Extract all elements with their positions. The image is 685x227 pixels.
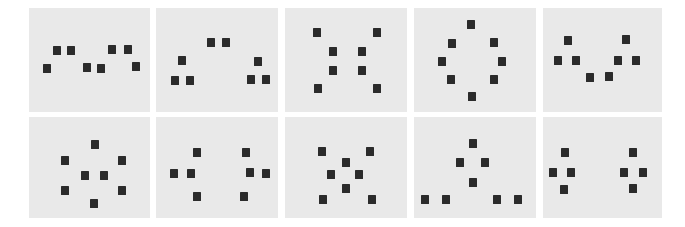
pattern-dot (124, 45, 132, 54)
stimulus-grid (0, 0, 685, 227)
dot-pattern-panel[interactable] (29, 117, 150, 218)
pattern-dot (438, 57, 446, 66)
pattern-dot (586, 73, 594, 82)
pattern-dot (108, 45, 116, 54)
pattern-dot (629, 184, 637, 193)
pattern-dot (342, 184, 350, 193)
pattern-dot (468, 92, 476, 101)
pattern-dot (193, 192, 201, 201)
pattern-dot (132, 62, 140, 71)
pattern-dot (61, 156, 69, 165)
pattern-dot (178, 56, 186, 65)
pattern-dot (247, 75, 255, 84)
pattern-dot (373, 28, 381, 37)
pattern-dot (91, 140, 99, 149)
pattern-dot (605, 72, 613, 81)
dot-pattern-panel[interactable] (543, 117, 662, 218)
pattern-dot (318, 147, 326, 156)
pattern-dot (118, 156, 126, 165)
dot-pattern-panel[interactable] (414, 8, 536, 112)
pattern-dot (240, 192, 248, 201)
pattern-dot (554, 56, 562, 65)
pattern-dot (61, 186, 69, 195)
pattern-dot (467, 20, 475, 29)
pattern-dot (246, 168, 254, 177)
pattern-dot (314, 84, 322, 93)
pattern-dot (170, 169, 178, 178)
pattern-dot (186, 76, 194, 85)
pattern-dot (481, 158, 489, 167)
pattern-dot (81, 171, 89, 180)
pattern-dot (469, 139, 477, 148)
pattern-dot (549, 168, 557, 177)
dot-pattern-panel[interactable] (285, 117, 407, 218)
pattern-dot (262, 75, 270, 84)
pattern-dot (373, 84, 381, 93)
pattern-dot (567, 168, 575, 177)
pattern-dot (358, 66, 366, 75)
pattern-dot (242, 148, 250, 157)
pattern-dot (90, 199, 98, 208)
pattern-dot (327, 170, 335, 179)
pattern-dot (193, 148, 201, 157)
pattern-dot (83, 63, 91, 72)
pattern-dot (493, 195, 501, 204)
pattern-dot (421, 195, 429, 204)
pattern-dot (67, 46, 75, 55)
pattern-dot (222, 38, 230, 47)
pattern-dot (564, 36, 572, 45)
pattern-dot (358, 47, 366, 56)
pattern-dot (514, 195, 522, 204)
dot-pattern-panel[interactable] (156, 117, 278, 218)
pattern-dot (456, 158, 464, 167)
pattern-dot (490, 75, 498, 84)
pattern-dot (629, 148, 637, 157)
pattern-dot (118, 186, 126, 195)
pattern-dot (620, 168, 628, 177)
pattern-dot (447, 75, 455, 84)
dot-pattern-panel[interactable] (29, 8, 150, 112)
pattern-dot (329, 47, 337, 56)
pattern-dot (43, 64, 51, 73)
pattern-dot (342, 158, 350, 167)
pattern-dot (313, 28, 321, 37)
pattern-dot (254, 57, 262, 66)
pattern-dot (319, 195, 327, 204)
pattern-dot (632, 56, 640, 65)
dot-pattern-panel[interactable] (156, 8, 278, 112)
dot-pattern-panel[interactable] (285, 8, 407, 112)
pattern-dot (207, 38, 215, 47)
pattern-dot (572, 56, 580, 65)
pattern-dot (329, 66, 337, 75)
pattern-dot (622, 35, 630, 44)
pattern-dot (53, 46, 61, 55)
pattern-dot (639, 168, 647, 177)
pattern-dot (561, 148, 569, 157)
pattern-dot (560, 185, 568, 194)
pattern-dot (187, 169, 195, 178)
pattern-dot (368, 195, 376, 204)
pattern-dot (262, 169, 270, 178)
pattern-dot (614, 56, 622, 65)
pattern-dot (100, 171, 108, 180)
dot-pattern-panel[interactable] (543, 8, 662, 112)
pattern-dot (97, 64, 105, 73)
pattern-dot (355, 170, 363, 179)
pattern-dot (498, 57, 506, 66)
pattern-dot (490, 38, 498, 47)
pattern-dot (448, 39, 456, 48)
pattern-dot (442, 195, 450, 204)
pattern-dot (366, 147, 374, 156)
pattern-dot (171, 76, 179, 85)
dot-pattern-panel[interactable] (414, 117, 536, 218)
pattern-dot (469, 178, 477, 187)
